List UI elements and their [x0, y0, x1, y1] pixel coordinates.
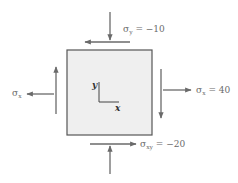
sigma-x-left-label: σx [12, 88, 22, 99]
sigma-y-label: σy = −10 [123, 24, 165, 36]
stress-element-square [67, 50, 152, 135]
x-axis-label: x [114, 103, 121, 113]
tau-xy-value: = −20 [153, 139, 186, 149]
sigma-x-right-label: σx = 40 [196, 85, 231, 96]
stress-element-diagram: y x σy = −10 σx σx = 40 σxy = −20 [0, 0, 238, 183]
top-face-stresses: σy = −10 [85, 12, 165, 42]
bottom-face-stresses: σxy = −20 [90, 139, 185, 174]
right-face-stresses: σx = 40 [161, 69, 231, 118]
y-axis-label: y [91, 80, 98, 90]
sigma-y-value: = −10 [133, 24, 166, 34]
sigma-subscript: x [18, 92, 22, 99]
tau-xy-label: σxy = −20 [140, 139, 185, 151]
left-face-stresses: σx [12, 67, 56, 114]
sigma-x-value: = 40 [206, 85, 231, 95]
